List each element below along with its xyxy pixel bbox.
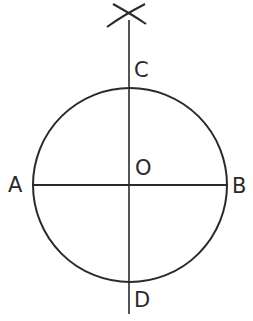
construction-drawing <box>0 0 253 321</box>
label-c: C <box>134 60 149 81</box>
construction-arc-cross <box>107 4 146 27</box>
label-d: D <box>134 290 150 311</box>
label-b: B <box>232 176 246 197</box>
diagram-canvas: C O A B D <box>0 0 253 321</box>
label-o: O <box>135 158 152 179</box>
label-a: A <box>8 175 22 196</box>
